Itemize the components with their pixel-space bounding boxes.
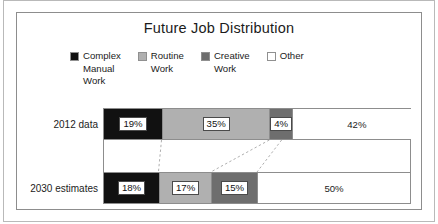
legend-label-complex-manual-work: Complex Manual Work bbox=[83, 50, 121, 88]
legend-item-complex-manual-work[interactable]: Complex Manual Work bbox=[70, 50, 121, 88]
bar-row-2030[interactable]: 2030 estimates 18% 17% 15% 50% bbox=[103, 172, 411, 204]
legend-swatch-routine-work bbox=[138, 52, 147, 61]
segment-value-2030-creative-work: 15% bbox=[221, 181, 248, 195]
legend-item-other[interactable]: Other bbox=[267, 50, 304, 63]
transition-band bbox=[103, 140, 411, 172]
segment-2012-creative-work[interactable]: 4% bbox=[269, 109, 292, 139]
plot-area: 2012 data 19% 35% 4% 42% 2030 estimates … bbox=[103, 108, 411, 204]
segment-2030-other[interactable]: 50% bbox=[257, 173, 410, 203]
legend-item-creative-work[interactable]: Creative Work bbox=[201, 50, 250, 75]
bar-row-2012[interactable]: 2012 data 19% 35% 4% 42% bbox=[103, 108, 411, 140]
chart-title: Future Job Distribution bbox=[16, 20, 422, 36]
legend-label-creative-work: Creative Work bbox=[214, 50, 250, 75]
legend-swatch-complex-manual-work bbox=[70, 52, 79, 61]
row-label-2030: 2030 estimates bbox=[30, 183, 98, 194]
legend-label-other: Other bbox=[280, 50, 304, 63]
segment-value-2012-creative-work: 4% bbox=[270, 117, 292, 131]
segment-value-2030-other: 50% bbox=[324, 183, 343, 194]
segment-value-2030-routine-work: 17% bbox=[172, 181, 199, 195]
legend-label-routine-work: Routine Work bbox=[151, 50, 184, 75]
legend-item-routine-work[interactable]: Routine Work bbox=[138, 50, 184, 75]
row-label-2012: 2012 data bbox=[54, 119, 99, 130]
segment-2012-other[interactable]: 42% bbox=[292, 109, 421, 139]
segment-2030-routine-work[interactable]: 17% bbox=[159, 173, 211, 203]
segment-2012-routine-work[interactable]: 35% bbox=[162, 109, 269, 139]
segment-2030-creative-work[interactable]: 15% bbox=[211, 173, 257, 203]
chart-legend: Complex Manual Work Routine Work Creativ… bbox=[70, 50, 390, 88]
segment-value-2012-routine-work: 35% bbox=[203, 117, 230, 131]
segment-2012-complex-manual-work[interactable]: 19% bbox=[104, 109, 162, 139]
segment-2030-complex-manual-work[interactable]: 18% bbox=[104, 173, 159, 203]
chart-page: Future Job Distribution Complex Manual W… bbox=[0, 0, 438, 224]
segment-value-2012-complex-manual-work: 19% bbox=[119, 117, 146, 131]
segment-value-2012-other: 42% bbox=[347, 119, 366, 130]
legend-swatch-other bbox=[267, 52, 276, 61]
legend-swatch-creative-work bbox=[201, 52, 210, 61]
segment-value-2030-complex-manual-work: 18% bbox=[118, 181, 145, 195]
